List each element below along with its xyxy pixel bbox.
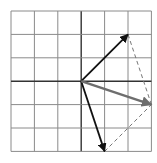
vector-diagram (0, 0, 157, 163)
vector-b (81, 81, 104, 151)
vector-resultant (81, 81, 151, 104)
dashed-line-a-to-resultant (128, 34, 151, 104)
vectors (81, 34, 151, 151)
